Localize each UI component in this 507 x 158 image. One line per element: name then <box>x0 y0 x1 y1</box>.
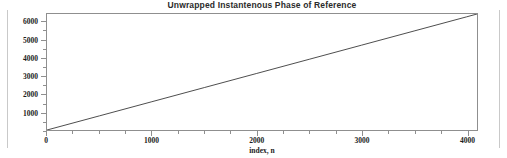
x-minor-tick <box>125 131 126 134</box>
y-tick-3000 <box>41 76 46 77</box>
y-minor-tick <box>43 104 46 105</box>
x-axis-title: index, n <box>46 146 478 155</box>
x-tick-label-0: 0 <box>44 136 48 145</box>
x-minor-tick <box>388 131 389 134</box>
x-tick-label-4000: 4000 <box>460 136 475 145</box>
y-tick-label-2000: 2000 <box>23 90 38 99</box>
y-minor-tick <box>43 49 46 50</box>
y-tick-6000 <box>41 21 46 22</box>
y-tick-label-6000: 6000 <box>23 17 38 26</box>
y-tick-5000 <box>41 40 46 41</box>
x-minor-tick <box>441 131 442 134</box>
y-tick-label-4000: 4000 <box>23 53 38 62</box>
x-minor-tick <box>336 131 337 134</box>
data-line-svg <box>47 14 477 130</box>
x-minor-tick <box>99 131 100 134</box>
y-tick-label-3000: 3000 <box>23 72 38 81</box>
y-tick-1000 <box>41 113 46 114</box>
y-minor-tick <box>43 122 46 123</box>
x-minor-tick <box>230 131 231 134</box>
y-minor-tick <box>43 30 46 31</box>
y-minor-tick <box>43 85 46 86</box>
x-tick-label-3000: 3000 <box>355 136 370 145</box>
x-minor-tick <box>283 131 284 134</box>
page-margin-rule-right <box>499 10 500 148</box>
x-minor-tick <box>178 131 179 134</box>
x-minor-tick <box>204 131 205 134</box>
y-tick-label-5000: 5000 <box>23 35 38 44</box>
figure-container: Unwrapped Instantenous Phase of Referenc… <box>0 0 507 158</box>
series-unwrapped-phase <box>47 14 477 130</box>
x-minor-tick <box>309 131 310 134</box>
chart-title: Unwrapped Instantenous Phase of Referenc… <box>46 0 478 10</box>
y-tick-4000 <box>41 58 46 59</box>
x-minor-tick <box>415 131 416 134</box>
page-margin-rule-left <box>7 10 8 148</box>
y-tick-label-1000: 1000 <box>23 108 38 117</box>
x-tick-label-1000: 1000 <box>144 136 159 145</box>
y-minor-tick <box>43 67 46 68</box>
x-minor-tick <box>72 131 73 134</box>
y-tick-2000 <box>41 94 46 95</box>
x-tick-label-2000: 2000 <box>249 136 264 145</box>
plot-area <box>46 13 478 131</box>
